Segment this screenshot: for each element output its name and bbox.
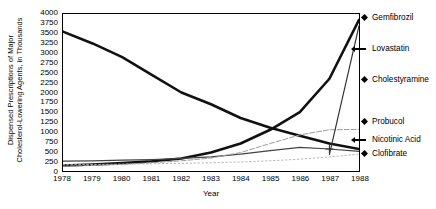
x-tick-label: 1978 [53,175,71,183]
legend-label: Clofibrate [372,150,407,158]
y-tick-label: 250 [45,158,58,166]
y-tick-label: 2000 [40,89,58,97]
y-tick-label: 500 [45,148,58,156]
diamond-marker-icon [360,14,369,23]
legend-item-gemfibrozil[interactable]: Gemfibrozil [360,13,413,23]
x-tick-label: 1987 [321,175,339,183]
x-tick-label: 1983 [202,175,220,183]
series-line [63,20,359,166]
y-tick-label: 750 [45,138,58,146]
y-tick-label: 2500 [40,69,58,77]
diamond-marker-icon [360,150,369,159]
y-tick-label: 1250 [40,118,58,126]
chart-figure: Dispensed Prescriptions of Major Cholest… [0,0,436,209]
y-tick-label: 2750 [40,59,58,67]
plot-area [62,13,360,172]
series-lines [63,14,359,171]
series-line [63,32,359,149]
diamond-marker-icon [360,76,369,85]
y-tick-label: 3250 [40,39,58,47]
y-tick-label: 1000 [40,128,58,136]
x-tick-label: 1986 [291,175,309,183]
x-tick-label: 1979 [83,175,101,183]
y-tick-label: 4000 [40,9,58,17]
legend-item-clofibrate[interactable]: Clofibrate [360,149,407,159]
legend-label: Gemfibrozil [372,14,413,22]
data-point-marker [325,145,333,153]
legend-item-nicotinic-acid[interactable]: Nicotinic Acid [360,135,421,145]
series-line [63,147,359,161]
y-tick-label: 3750 [40,19,58,27]
x-tick-label: 1984 [232,175,250,183]
y-axis-title-line2: Cholesterol-Lowering Agents, in Thousand… [15,0,24,180]
legend-label: Nicotinic Acid [372,136,421,144]
arrow-pointer-icon [360,136,369,145]
y-tick-label: 3000 [40,49,58,57]
legend-label: Probucol [372,118,404,126]
y-tick-label: 1500 [40,108,58,116]
x-tick-label: 1981 [142,175,160,183]
legend-item-probucol[interactable]: Probucol [360,117,404,127]
arrow-pointer-icon [360,45,369,54]
x-axis-title: Year [62,189,360,198]
y-tick-label: 3500 [40,29,58,37]
legend-item-lovastatin[interactable]: Lovastatin [360,44,409,54]
x-tick-label: 1985 [262,175,280,183]
legend-item-cholestyramine[interactable]: Cholestyramine [360,75,429,85]
y-tick-label: 1750 [40,98,58,106]
diamond-marker-icon [360,118,369,127]
legend-label: Lovastatin [372,45,409,53]
legend-label: Cholestyramine [372,76,429,84]
y-tick-label: 2250 [40,79,58,87]
x-tick-label: 1980 [113,175,131,183]
x-tick-label: 1982 [172,175,190,183]
chart-legend: GemfibrozilLovastatinCholestyramineProbu… [360,0,436,180]
y-axis-title-line1: Dispensed Prescriptions of Major [6,0,15,180]
